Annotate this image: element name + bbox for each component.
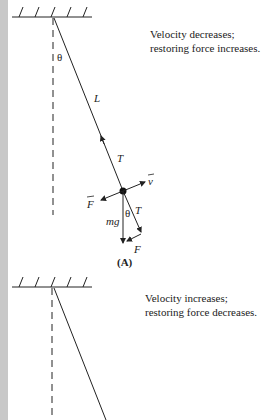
tension-label-component: T bbox=[135, 203, 141, 217]
ceiling-b bbox=[12, 277, 92, 287]
pendulum-diagram bbox=[0, 0, 263, 420]
ceiling-a bbox=[12, 7, 92, 17]
caption-a-line2: restoring force increases. bbox=[150, 41, 260, 55]
angle-label-top: θ bbox=[57, 50, 62, 64]
caption-b-line1: Velocity increases; bbox=[145, 291, 228, 305]
angle-label-bottom: θ bbox=[125, 206, 130, 220]
force-label-bottom: F bbox=[134, 242, 141, 256]
caption-b-line2: restoring force decreases. bbox=[145, 305, 257, 319]
caption-a-line1: Velocity decreases; bbox=[150, 27, 235, 41]
panel-a-label: (A) bbox=[117, 255, 132, 269]
weight-label: mg bbox=[106, 214, 119, 228]
velocity-label: v bbox=[148, 174, 153, 188]
string-a bbox=[54, 18, 123, 191]
force-label-left: F bbox=[87, 197, 94, 211]
tension-label-string: T bbox=[117, 151, 123, 165]
length-label: L bbox=[94, 91, 100, 105]
string-b bbox=[54, 288, 106, 420]
